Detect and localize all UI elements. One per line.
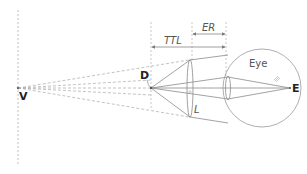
- virtual-rays: [18, 60, 189, 117]
- lens-center-mark: [189, 91, 191, 93]
- label-v: V: [19, 90, 28, 103]
- label-eye: Eye: [249, 58, 267, 69]
- label-d: D: [140, 69, 149, 82]
- optical-diagram: V D L E Eye TTL ER: [0, 0, 307, 174]
- point-e: [289, 87, 291, 89]
- point-v: [17, 87, 19, 89]
- label-l: L: [194, 104, 200, 115]
- label-er: ER: [202, 22, 215, 33]
- retina-hatch-icon: [274, 76, 280, 82]
- label-ttl: TTL: [164, 35, 182, 46]
- real-rays: [151, 55, 290, 123]
- point-d: [150, 87, 152, 89]
- label-e: E: [292, 82, 300, 95]
- lens: [187, 60, 193, 118]
